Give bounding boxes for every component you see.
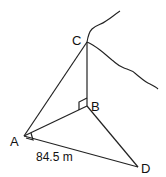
point-label-C: C — [72, 33, 81, 48]
point-label-A: A — [10, 134, 19, 149]
point-label-B: B — [91, 99, 100, 114]
cliff-lower-edge — [87, 42, 158, 89]
geometry-diagram: C B A D 84.5 m — [0, 0, 166, 177]
point-label-D: D — [141, 161, 150, 176]
segment-AC — [24, 42, 87, 136]
segment-BD — [87, 106, 138, 167]
cliff-upper-edge — [87, 11, 120, 42]
measurement-AD: 84.5 m — [36, 150, 73, 164]
